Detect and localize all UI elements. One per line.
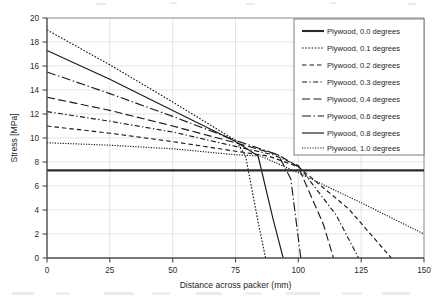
y-tick-label: 10 [30,134,40,143]
x-tick-label: 125 [354,266,368,275]
y-tick-label: 12 [30,110,40,119]
legend-label-plywood-0-1-degrees: Plywood, 0.1 degrees [327,44,400,53]
y-tick-label: 2 [34,230,39,239]
scan-artifact-bottom [12,292,410,295]
y-tick-label: 4 [34,206,39,215]
y-tick-labels: 20 18 16 14 12 10 8 6 4 2 0 [30,14,40,263]
legend-label-plywood-0-4-degrees: Plywood, 0.4 degrees [327,95,400,104]
stress-distance-line-chart: 20 18 16 14 12 10 8 6 4 2 0 0 25 50 75 1… [0,0,441,302]
x-axis [47,258,424,263]
y-tick-label: 14 [30,86,40,95]
y-tick-label: 8 [34,158,39,167]
y-axis [43,18,48,258]
x-tick-label: 50 [168,266,178,275]
scan-artifact-top [96,2,416,5]
chart-figure: 20 18 16 14 12 10 8 6 4 2 0 0 25 50 75 1… [0,0,441,302]
legend-label-plywood-1-0-degrees: Plywood, 1.0 degrees [327,144,400,153]
legend-label-plywood-0-3-degrees: Plywood, 0.3 degrees [327,78,400,87]
legend-label-plywood-0-0-degrees: Plywood, 0.0 degrees [327,27,400,36]
x-tick-labels: 0 25 50 75 100 125 150 [45,266,432,275]
y-tick-label: 6 [34,182,39,191]
legend-label-plywood-0-8-degrees: Plywood, 0.8 degrees [327,129,400,138]
x-tick-label: 150 [417,266,431,275]
y-tick-label: 20 [30,14,40,23]
legend-label-plywood-0-2-degrees: Plywood, 0.2 degrees [327,61,400,70]
y-axis-title: Stress [MPa] [9,113,19,162]
x-tick-label: 100 [291,266,305,275]
x-axis-title: Distance across packer (mm) [180,280,292,290]
legend-label-plywood-0-6-degrees: Plywood, 0.6 degrees [327,112,400,121]
y-tick-label: 0 [34,254,39,263]
y-tick-label: 16 [30,62,40,71]
x-tick-label: 25 [105,266,115,275]
x-tick-label: 0 [45,266,50,275]
chart-legend: Plywood, 0.0 degrees Plywood, 0.1 degree… [294,19,424,155]
y-tick-label: 18 [30,38,40,47]
x-tick-label: 75 [231,266,241,275]
